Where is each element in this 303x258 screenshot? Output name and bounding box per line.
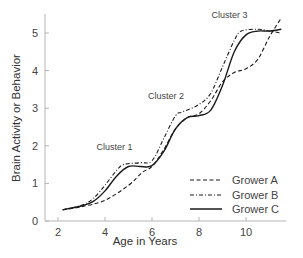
y-tick-label: 2 xyxy=(32,140,38,152)
x-tick-label: 4 xyxy=(102,226,108,238)
legend-label: Grower C xyxy=(232,203,279,215)
y-tick-label: 1 xyxy=(32,177,38,189)
cluster-label: Cluster 2 xyxy=(148,91,184,101)
y-axis-title: Brain Activity or Behavior xyxy=(10,54,22,182)
x-tick-label: 8 xyxy=(196,226,202,238)
legend-item-grower-b: Grower B xyxy=(190,189,278,201)
x-tick-label: 2 xyxy=(55,226,61,238)
cluster-label: Cluster 3 xyxy=(212,10,248,20)
y-tick-label: 4 xyxy=(32,65,38,77)
legend-item-grower-a: Grower A xyxy=(190,174,279,186)
x-axis-title: Age in Years xyxy=(113,235,178,247)
x-tick-label: 10 xyxy=(240,226,252,238)
cluster-label: Cluster 1 xyxy=(96,142,132,152)
y-ticks: 012345 xyxy=(32,27,49,227)
legend-label: Grower A xyxy=(232,174,279,186)
y-tick-label: 0 xyxy=(32,215,38,227)
legend: Grower A Grower B Grower C xyxy=(190,174,279,215)
y-tick-label: 5 xyxy=(32,27,38,39)
line-chart: 012345 246810 Age in Years Brain Activit… xyxy=(0,0,303,258)
legend-item-grower-c: Grower C xyxy=(190,203,279,215)
legend-label: Grower B xyxy=(232,189,278,201)
y-tick-label: 3 xyxy=(32,102,38,114)
